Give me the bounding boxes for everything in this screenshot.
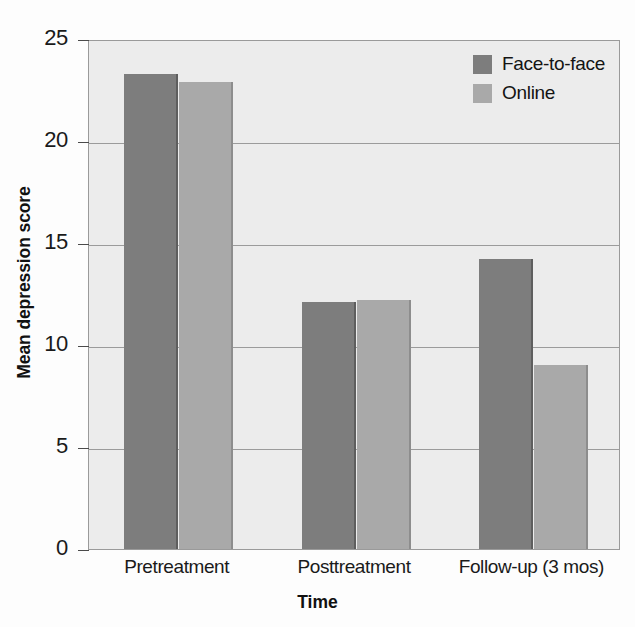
x-axis-title: Time bbox=[0, 592, 635, 613]
y-tick-mark bbox=[78, 550, 89, 551]
y-tick-mark bbox=[78, 346, 89, 347]
y-tick-label: 25 bbox=[8, 25, 68, 51]
y-tick-mark bbox=[78, 244, 89, 245]
bar-follow-up-3-mos-online bbox=[534, 365, 588, 549]
legend-label-face-to-face: Face-to-face bbox=[502, 53, 605, 75]
x-tick-label: Follow-up (3 mos) bbox=[421, 556, 635, 578]
y-tick-mark bbox=[78, 142, 89, 143]
legend-swatch-online bbox=[473, 84, 492, 103]
legend-item-online: Online bbox=[473, 82, 605, 104]
bar-pretreatment-face-to-face bbox=[124, 74, 178, 549]
y-tick-mark bbox=[78, 448, 89, 449]
legend-item-face-to-face: Face-to-face bbox=[473, 53, 605, 75]
bar-chart: Face-to-face Online 0510152025 Mean depr… bbox=[0, 0, 635, 627]
bar-follow-up-3-mos-face-to-face bbox=[479, 259, 533, 549]
legend: Face-to-face Online bbox=[473, 53, 605, 111]
y-axis-title: Mean depression score bbox=[14, 73, 35, 493]
legend-swatch-face-to-face bbox=[473, 55, 492, 74]
bar-posttreatment-online bbox=[357, 300, 411, 549]
bar-posttreatment-face-to-face bbox=[302, 302, 356, 549]
plot-area: Face-to-face Online bbox=[88, 40, 620, 550]
y-tick-mark bbox=[78, 40, 89, 41]
legend-label-online: Online bbox=[502, 82, 555, 104]
bar-pretreatment-online bbox=[179, 82, 233, 549]
y-tick-label: 0 bbox=[8, 535, 68, 561]
